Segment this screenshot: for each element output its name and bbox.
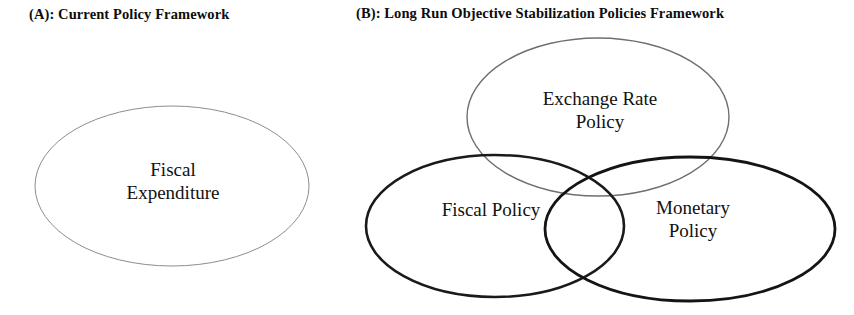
monetary-policy-ellipse	[545, 157, 835, 301]
fiscal-policy-ellipse	[366, 155, 624, 297]
figure-canvas: (A): Current Policy Framework Fiscal Exp…	[0, 0, 854, 315]
panel-b-diagram	[0, 0, 854, 315]
panel-b-svg	[0, 0, 854, 315]
